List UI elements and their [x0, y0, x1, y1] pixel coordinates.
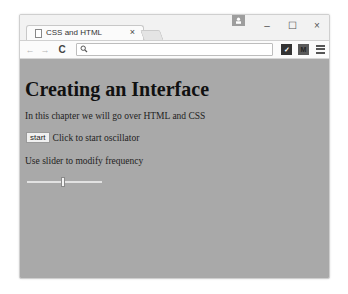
intro-text: In this chapter we will go over HTML and…	[25, 111, 205, 121]
title-bar: CSS and HTML × – ☐ ×	[20, 15, 329, 39]
back-button[interactable]: ←	[24, 43, 36, 56]
forward-button[interactable]: →	[39, 43, 51, 56]
page-icon	[35, 29, 42, 38]
tab-close-icon[interactable]: ×	[130, 27, 135, 37]
frequency-slider[interactable]	[27, 177, 102, 187]
search-icon	[80, 45, 88, 53]
reload-button[interactable]: C	[56, 43, 68, 56]
user-icon	[235, 17, 242, 24]
start-row: start Click to start oscillator	[26, 132, 139, 143]
address-bar[interactable]	[76, 43, 273, 56]
checkmark-extension-icon[interactable]: ✓	[281, 44, 292, 55]
m-extension-icon[interactable]: M	[298, 44, 309, 55]
minimize-button[interactable]: –	[257, 18, 277, 32]
start-button[interactable]: start	[26, 132, 50, 143]
profile-button[interactable]	[232, 15, 245, 26]
close-window-button[interactable]: ×	[307, 18, 327, 32]
browser-toolbar: ← → C ✓ M	[20, 40, 329, 59]
page-content: Creating an Interface In this chapter we…	[20, 59, 329, 279]
start-instructions: Click to start oscillator	[53, 133, 140, 143]
browser-window: CSS and HTML × – ☐ × ← → C ✓ M Creating …	[19, 14, 330, 279]
tab-label: CSS and HTML	[46, 28, 102, 37]
page-title: Creating an Interface	[25, 78, 209, 101]
menu-icon[interactable]	[316, 44, 325, 55]
maximize-button[interactable]: ☐	[282, 18, 302, 32]
slider-thumb[interactable]	[61, 177, 65, 187]
slider-label: Use slider to modify frequency	[25, 156, 143, 166]
tab-css-and-html[interactable]: CSS and HTML ×	[26, 25, 144, 41]
